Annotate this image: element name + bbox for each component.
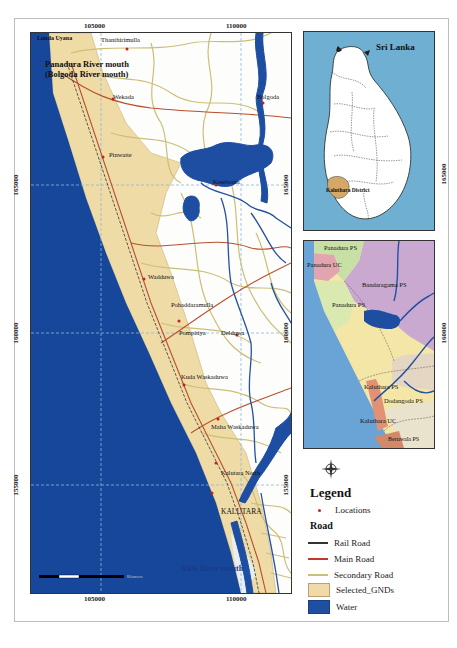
admin-label-kaluthara-uc: Kaluthara UC	[360, 417, 396, 424]
place-panadura-river-mouth: Panadura River mouth	[45, 59, 129, 69]
secondary-road-swatch	[308, 574, 328, 576]
legend-item-water: Water	[308, 599, 357, 615]
place-lunda-uyana: Lunda Uyana	[37, 35, 72, 41]
legend-label-secondary-road: Secondary Road	[334, 570, 393, 580]
inset-sri-lanka: Sri Lanka Kaluthara District	[303, 31, 435, 231]
x-tick-105000-top: 105000	[84, 22, 105, 30]
x-tick-110000-top: 110000	[226, 22, 247, 30]
place-kalutara-north: Kalutara North	[221, 469, 260, 476]
inset2-y-tick: 160000	[440, 323, 448, 344]
legend-item-secondary-road: Secondary Road	[308, 568, 393, 582]
admin-label-bandaragama-ps: Bandaragama PS	[362, 281, 407, 288]
place-wekada: Wekada	[113, 93, 134, 100]
x-tick-105000-bottom: 105000	[84, 595, 105, 603]
north-arrow-icon	[320, 458, 342, 480]
legend-label-selected-gnds: Selected_GNDs	[336, 585, 394, 595]
legend-item-locations: Locations	[318, 503, 371, 517]
place-kalutara: KALUTARA	[221, 507, 262, 516]
y-tick-160000-left: 160000	[12, 323, 20, 344]
legend-title: Legend	[310, 485, 351, 501]
legend-label-rail-road: Rail Road	[334, 538, 370, 548]
rail-road-swatch	[308, 542, 328, 544]
main-road-swatch	[308, 558, 328, 560]
y-tick-160000-right: 160000	[282, 323, 290, 344]
place-bolgoda-river-mouth: (Bolgoda River mouth)	[45, 69, 128, 79]
admin-label-kaluthara-ps: Kaluthara PS	[364, 383, 398, 390]
place-bolgoda: Bolgoda	[257, 93, 279, 100]
admin-label-panadura-ps-north: Panadura PS	[324, 244, 357, 251]
y-tick-155000-right: 155000	[282, 475, 290, 496]
place-wadduwa: Wadduwa	[148, 273, 174, 280]
y-tick-165000-left: 165000	[12, 175, 20, 196]
legend-label-water: Water	[336, 602, 357, 612]
admin-label-panadura-uc: Panadura UC	[307, 261, 342, 268]
place-keselwatta: Keselwatta	[213, 179, 240, 185]
x-tick-110000-bottom: 110000	[226, 595, 247, 603]
place-maha-waskaduwa: Maha Waskaduwa	[211, 423, 259, 430]
admin-label-panadura-ps: Panadura PS	[332, 301, 365, 308]
place-kuda-waskaduwa: Kuda Waskaduwa	[181, 373, 228, 380]
kaluthara-district-label: Kaluthara District	[326, 187, 370, 193]
place-kalu-river-mouth: Kalu River mouth	[181, 564, 243, 573]
legend-road-heading: Road	[310, 520, 333, 531]
place-delduwa: Delduwa	[221, 329, 244, 336]
selected-gnds-swatch	[308, 583, 330, 597]
legend-item-selected-gnds: Selected_GNDs	[308, 582, 394, 598]
place-pompitiya: Pompitiya	[179, 329, 206, 336]
main-map: Kilometers Lunda Uyana Thanthirimulla Pa…	[30, 32, 292, 594]
y-tick-165000-right: 165000	[282, 175, 290, 196]
legend-item-main-road: Main Road	[308, 552, 374, 566]
water-swatch	[308, 600, 330, 614]
inset-admin-divisions: Panadura PS Panadura UC Bandaragama PS P…	[303, 240, 435, 449]
place-thanthirimulla: Thanthirimulla	[101, 36, 140, 43]
svg-text:Kilometers: Kilometers	[127, 575, 143, 579]
inset-title-sri-lanka: Sri Lanka	[376, 42, 415, 52]
place-pohaddaramulla: Pohaddaramulla	[171, 301, 213, 308]
y-tick-155000-left: 155000	[12, 475, 20, 496]
legend-label-locations: Locations	[335, 505, 371, 515]
location-dot-icon	[318, 509, 321, 512]
legend-label-main-road: Main Road	[334, 554, 374, 564]
place-pinwatte: Pinwatte	[109, 151, 132, 158]
admin-label-dodangoda-ps: Dodangoda PS	[384, 397, 423, 404]
inset-x-tick: 165000	[440, 164, 448, 185]
legend-item-rail-road: Rail Road	[308, 536, 370, 550]
admin-label-beruwala-ps: Beruwala PS	[388, 436, 419, 442]
